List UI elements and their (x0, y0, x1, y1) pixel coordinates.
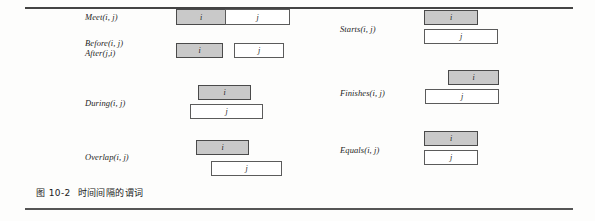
overlap-interval-i-text: i (221, 143, 223, 152)
after-label-line2: After(j,i) (85, 48, 123, 58)
starts-interval-j-text: j (460, 32, 462, 41)
starts-interval-j: j (424, 29, 498, 44)
overlap-interval-j-text: j (245, 164, 247, 173)
predicate-label-finishes: Finishes(i, j) (340, 88, 385, 98)
finishes-label-line1: Finishes(i, j) (340, 88, 385, 98)
starts-interval-i-text: i (450, 13, 452, 22)
before-interval-i: i (176, 43, 223, 58)
meet-label-line1: Meet(i, j) (85, 12, 118, 22)
equals-label-line1: Equals(i, j) (340, 145, 379, 155)
starts-interval-i: i (424, 10, 478, 25)
top-rule (25, 7, 573, 9)
figure-page: Meet(i, j) i j Before(i, j) After(j,i) i… (0, 0, 595, 221)
equals-interval-i: i (424, 131, 478, 146)
before-interval-i-text: i (198, 46, 200, 55)
overlap-label-line1: Overlap(i, j) (85, 152, 129, 162)
finishes-interval-j-text: j (461, 92, 463, 101)
predicate-label-starts: Starts(i, j) (340, 24, 376, 34)
finishes-interval-i: i (448, 70, 499, 85)
starts-label-line1: Starts(i, j) (340, 24, 376, 34)
bottom-rule (25, 208, 573, 210)
before-interval-j: j (234, 43, 284, 58)
figure-caption-number: 图 10-2 (36, 188, 71, 198)
figure-caption: 图 10-2时间间隔的谓词 (36, 186, 144, 199)
before-label-line1: Before(i, j) (85, 38, 123, 48)
equals-interval-i-text: i (450, 134, 452, 143)
meet-interval-i: i (176, 9, 226, 25)
during-interval-i-text: i (223, 88, 225, 97)
during-interval-j-text: j (225, 107, 227, 116)
meet-interval-j-text: j (256, 13, 258, 22)
overlap-interval-i: i (196, 140, 249, 155)
equals-interval-j-text: j (450, 153, 452, 162)
during-interval-j: j (190, 104, 263, 119)
finishes-interval-j: j (425, 89, 499, 104)
predicate-label-equals: Equals(i, j) (340, 145, 379, 155)
predicate-label-during: During(i, j) (85, 98, 125, 108)
predicate-label-before-after: Before(i, j) After(j,i) (85, 38, 123, 58)
during-interval-i: i (198, 85, 251, 100)
meet-interval-i-text: i (200, 13, 202, 22)
overlap-interval-j: j (211, 161, 282, 176)
equals-interval-j: j (424, 150, 478, 165)
meet-interval-j: j (225, 9, 290, 25)
during-label-line1: During(i, j) (85, 98, 125, 108)
predicate-label-meet: Meet(i, j) (85, 12, 118, 22)
predicate-label-overlap: Overlap(i, j) (85, 152, 129, 162)
before-interval-j-text: j (258, 46, 260, 55)
figure-caption-text: 时间间隔的谓词 (78, 188, 144, 198)
finishes-interval-i-text: i (472, 73, 474, 82)
